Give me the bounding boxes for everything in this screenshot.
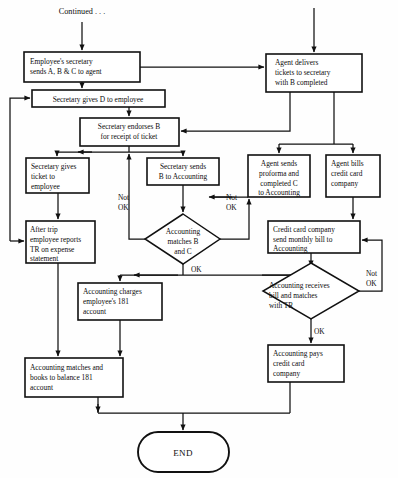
edge-label-line: Not xyxy=(366,269,378,278)
node-line: Credit card company xyxy=(273,225,335,234)
node-line: bill and matches xyxy=(269,291,318,300)
node-accounting-matches-b-c[interactable]: Accounting matches B and C xyxy=(145,214,220,264)
entry-label: Continued . . . xyxy=(59,7,105,16)
flowchart-canvas: Continued . . . Employee's secretary sen… xyxy=(0,0,398,478)
node-agent-sends-proforma[interactable]: Agent sends proforma and completed C to … xyxy=(248,155,310,197)
node-line: Accounting xyxy=(273,244,308,253)
node-employee-secretary-sends[interactable]: Employee's secretary sends A, B & C to a… xyxy=(24,52,140,82)
node-line: matches B xyxy=(168,237,199,246)
node-line: and C xyxy=(174,247,192,256)
node-accounting-receives-bill[interactable]: Accounting receives bill and matches wit… xyxy=(263,263,359,319)
node-line: END xyxy=(173,448,193,458)
node-line: statement xyxy=(30,254,59,263)
node-line: ticket to xyxy=(31,172,55,181)
node-line: company xyxy=(273,369,300,378)
edge-label-line: OK xyxy=(366,279,377,288)
node-line: proforma and xyxy=(259,169,299,178)
edge-label-not-ok-middle: Not OK xyxy=(226,193,238,212)
edge-label-line: Not xyxy=(118,193,130,202)
node-agent-bills-credit-card[interactable]: Agent bills credit card company xyxy=(326,155,380,197)
node-credit-card-monthly-bill[interactable]: Credit card company send monthly bill to… xyxy=(268,221,360,253)
node-line: with B completed xyxy=(275,78,328,87)
node-line: Secretary endorses B xyxy=(98,122,160,131)
node-line: Accounting receives xyxy=(269,281,330,290)
node-line: Agent sends xyxy=(261,159,297,168)
node-accounting-pays-credit-card[interactable]: Accounting pays credit card company xyxy=(268,345,344,382)
node-line: Agent delivers xyxy=(275,58,318,67)
node-line: to Accounting xyxy=(258,188,300,197)
node-accounting-charges-181[interactable]: Accounting charges employee's 181 accoun… xyxy=(78,283,162,320)
flowchart-svg: Continued . . . Employee's secretary sen… xyxy=(0,0,398,478)
node-line: Secretary gives D to employee xyxy=(53,95,144,104)
node-layer: Continued . . . Employee's secretary sen… xyxy=(24,7,380,472)
node-line: employee reports xyxy=(30,235,81,244)
node-line: Secretary sends xyxy=(160,162,206,171)
node-line: Agent bills xyxy=(331,159,364,168)
edge-label-line: OK xyxy=(118,203,129,212)
node-line: employee's 181 xyxy=(83,297,129,306)
node-line: Accounting charges xyxy=(83,287,142,296)
node-line: sends A, B & C to agent xyxy=(30,67,103,76)
node-line: for receipt of ticket xyxy=(101,132,159,141)
node-line: credit card xyxy=(331,169,363,178)
node-line: completed C xyxy=(260,179,298,188)
node-line: books to balance 181 xyxy=(30,373,93,382)
edge-agent-delivers-to-endorses-b xyxy=(181,92,290,131)
node-line: credit card xyxy=(273,359,305,368)
node-line: with TR xyxy=(269,301,293,310)
edge-label-not-ok-right: Not OK xyxy=(366,269,378,288)
node-secretary-gives-ticket[interactable]: Secretary gives ticket to employee xyxy=(26,158,89,193)
node-line: Accounting xyxy=(166,227,201,236)
node-agent-delivers-tickets[interactable]: Agent delivers tickets to secretary with… xyxy=(266,54,362,92)
node-line: Secretary gives xyxy=(31,162,76,171)
edge-label-line: OK xyxy=(314,327,325,336)
node-accounting-matches-books[interactable]: Accounting matches and books to balance … xyxy=(25,358,123,397)
edge-label-line: OK xyxy=(226,203,237,212)
edge-label-line: Not xyxy=(226,193,238,202)
node-line: TR on expense xyxy=(30,245,75,254)
edge-label-line: OK xyxy=(191,265,202,274)
node-line: After trip xyxy=(30,225,58,234)
edge-label-ok-right: OK xyxy=(314,327,325,336)
node-line: account xyxy=(30,383,54,392)
edge-label-ok-center: OK xyxy=(191,265,202,274)
node-secretary-endorses-b[interactable]: Secretary endorses B for receipt of tick… xyxy=(80,118,179,146)
node-line: send monthly bill to xyxy=(273,235,333,244)
node-line: account xyxy=(83,307,107,316)
node-after-trip-reports[interactable]: After trip employee reports TR on expens… xyxy=(26,221,95,263)
node-line: Employee's secretary xyxy=(30,57,93,66)
edge-not-ok-left-feedback xyxy=(129,154,145,239)
node-line: Accounting matches and xyxy=(30,363,103,372)
edge-label-not-ok-left: Not OK xyxy=(118,193,130,212)
node-line: company xyxy=(331,179,358,188)
node-line: employee xyxy=(31,182,60,191)
node-end-terminator[interactable]: END xyxy=(138,432,229,472)
node-line: B to Accounting xyxy=(159,172,208,181)
node-secretary-sends-b[interactable]: Secretary sends B to Accounting xyxy=(147,158,219,185)
node-secretary-gives-d[interactable]: Secretary gives D to employee xyxy=(32,90,165,107)
node-line: Accounting pays xyxy=(273,349,323,358)
node-line: tickets to secretary xyxy=(275,68,331,77)
